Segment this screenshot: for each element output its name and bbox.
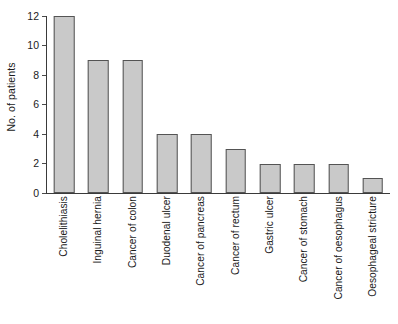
bar-slot [321,16,355,193]
x-axis-label-slot: Cancer of colon [116,196,150,324]
bar-slot [116,16,150,193]
bar-slot [47,16,81,193]
x-axis-label-slot: Gastric ulcer [253,196,287,324]
bar[interactable] [294,164,315,194]
x-axis-label-slot: Inguinal hernia [81,196,115,324]
x-axis-label-slot: Oesophageal stricture [356,196,390,324]
bar[interactable] [54,16,75,193]
y-axis-tick-label: 6 [33,99,42,110]
bar[interactable] [122,60,143,193]
bar[interactable] [157,134,178,193]
y-axis-tick-label: 8 [33,70,42,81]
x-axis-label: Oesophageal stricture [368,196,378,297]
x-axis-label-slot: Cholelithiasis [47,196,81,324]
x-axis-label: Duodenal ulcer [162,196,172,265]
y-axis-title-text: No. of patients [5,62,17,131]
bar-slot [150,16,184,193]
x-axis-label: Gastric ulcer [265,196,275,254]
x-axis-label: Cancer of rectum [231,196,241,275]
x-axis-label-slot: Cancer of oesophagus [321,196,355,324]
y-axis-title: No. of patients [0,0,22,193]
x-axis-label: Cholelithiasis [59,196,69,257]
x-axis-label: Cancer of oesophagus [333,196,343,300]
y-axis-tick-label: 12 [27,11,42,22]
bar[interactable] [363,178,384,193]
y-axis-tick-label: 4 [33,129,42,140]
bar[interactable] [191,134,212,193]
x-axis-label-slot: Cancer of pancreas [184,196,218,324]
y-axis-tick-label: 10 [27,40,42,51]
bar-slot [184,16,218,193]
bar-slot [81,16,115,193]
y-axis-tick-label: 0 [33,188,42,199]
x-axis-label: Cancer of pancreas [196,196,206,286]
bar-chart-figure: No. of patients 024681012 Cholelithiasis… [0,0,398,324]
bar[interactable] [260,164,281,194]
y-axis-tick-label: 2 [33,158,42,169]
x-axis-label-slot: Cancer of stomach [287,196,321,324]
x-axis-label-slot: Duodenal ulcer [150,196,184,324]
bar[interactable] [328,164,349,194]
bar-slot [287,16,321,193]
plot-area [47,16,390,193]
x-axis-labels: CholelithiasisInguinal herniaCancer of c… [47,196,390,324]
x-axis-label-slot: Cancer of rectum [219,196,253,324]
bar-slot [253,16,287,193]
bar[interactable] [225,149,246,193]
bar[interactable] [88,60,109,193]
bar-slot [356,16,390,193]
x-axis-label: Cancer of colon [128,196,138,268]
x-axis-label: Cancer of stomach [299,196,309,282]
y-axis-ticks: 024681012 [22,0,46,200]
x-axis-label: Inguinal hernia [93,196,103,264]
bar-slot [219,16,253,193]
